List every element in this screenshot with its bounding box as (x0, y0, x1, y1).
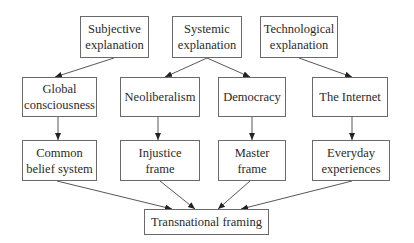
node-subjective-explanation: Subjectiveexplanation (80, 16, 149, 58)
node-label: belief system (26, 161, 92, 177)
node-label: frame (235, 161, 270, 177)
node-label: consciousness (24, 97, 95, 113)
node-transnational-framing: Transnational framing (144, 209, 269, 235)
node-master-frame: Masterframe (218, 140, 286, 181)
node-systemic-explanation: Systemicexplanation (172, 16, 242, 58)
arrow-systemic-democracy (207, 58, 250, 77)
node-label: Master (235, 145, 270, 161)
node-global-consciousness: Globalconsciousness (22, 77, 97, 117)
node-technological-explanation: Technologicalexplanation (260, 16, 338, 58)
arrow-master-transnational (218, 181, 250, 209)
node-injustice-frame: Injusticeframe (120, 140, 200, 181)
node-label: Global (24, 81, 95, 97)
arrow-technological-internet (299, 58, 352, 77)
node-neoliberalism: Neoliberalism (120, 77, 200, 117)
node-label: Neoliberalism (125, 89, 196, 105)
node-common-belief-system: Commonbelief system (22, 140, 97, 181)
node-label: experiences (322, 161, 381, 177)
node-label: Subjective (85, 21, 143, 37)
node-label: explanation (264, 37, 335, 53)
arrow-everyday-transnational (241, 181, 352, 209)
node-label: Common (26, 145, 92, 161)
node-label: Everyday (322, 145, 381, 161)
node-label: Transnational framing (151, 214, 262, 230)
node-label: frame (138, 161, 181, 177)
node-everyday-experiences: Everydayexperiences (312, 140, 390, 181)
arrow-systemic-neoliberalism (165, 58, 207, 77)
node-label: Technological (264, 21, 335, 37)
node-label: Injustice (138, 145, 181, 161)
node-democracy: Democracy (218, 77, 286, 117)
arrow-common-transnational (57, 181, 172, 209)
node-label: explanation (178, 37, 236, 53)
node-label: The Internet (319, 89, 380, 105)
node-label: Systemic (178, 21, 236, 37)
node-the-internet: The Internet (312, 77, 388, 117)
arrow-subjective-global (55, 58, 114, 77)
node-label: explanation (85, 37, 143, 53)
arrow-injustice-transnational (160, 181, 195, 209)
node-label: Democracy (223, 89, 281, 105)
